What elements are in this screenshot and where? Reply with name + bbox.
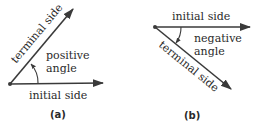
initial-side-label: initial side bbox=[29, 89, 87, 102]
panel-caption: (a) bbox=[50, 109, 66, 120]
initial-side-ray bbox=[10, 83, 103, 84]
angle-label-line1: negative bbox=[194, 32, 242, 45]
panel-caption: (b) bbox=[184, 110, 200, 121]
initial-side-label: initial side bbox=[172, 10, 230, 23]
positive-angle-arc-icon bbox=[31, 64, 38, 83]
vertex-dot bbox=[153, 25, 157, 29]
angle-label-line2: angle bbox=[194, 45, 225, 58]
angle-label-line2: angle bbox=[46, 62, 77, 75]
angle-diagram: terminal side positive angle initial sid… bbox=[0, 0, 262, 128]
vertex-dot bbox=[8, 82, 12, 86]
negative-angle-arc-icon bbox=[176, 27, 181, 43]
angle-label-line1: positive bbox=[46, 49, 90, 62]
panel-a: terminal side positive angle initial sid… bbox=[8, 1, 103, 120]
panel-b: initial side negative angle terminal sid… bbox=[153, 10, 250, 121]
